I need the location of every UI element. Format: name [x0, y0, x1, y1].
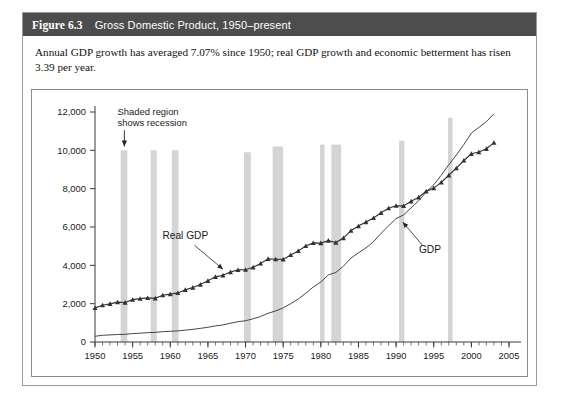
y-axis-ticks-group: 02,0004,0006,0008,00010,00012,000 — [57, 106, 95, 347]
chart-plot-panel: 02,0004,0006,0008,00010,00012,000 195019… — [31, 89, 528, 377]
series-marker — [379, 210, 384, 215]
series-marker — [348, 228, 353, 233]
recession-band — [121, 150, 128, 342]
annotation-arrowhead — [122, 141, 127, 147]
y-axis-tick-label: 10,000 — [57, 145, 86, 156]
y-axis-tick-label: 2,000 — [63, 298, 86, 309]
recession-band — [244, 152, 251, 342]
gdp-line-chart: 02,0004,0006,0008,00010,00012,000 195019… — [32, 90, 527, 376]
chart-annotations-group: Shaded regionshows recession — [118, 106, 187, 147]
figure-title: Gross Domestic Product, 1950–present — [95, 19, 291, 31]
y-axis-tick-label: 12,000 — [57, 106, 86, 117]
x-axis-tick-label: 1980 — [310, 350, 331, 361]
x-axis-tick-label: 2005 — [499, 350, 520, 361]
recession-band — [172, 150, 179, 342]
y-axis-tick-label: 8,000 — [63, 183, 86, 194]
real-gdp-leader-line — [194, 245, 223, 269]
recession-band — [273, 147, 284, 343]
y-axis-tick-label: 6,000 — [63, 221, 86, 232]
series-marker — [205, 278, 210, 283]
figure-number: Figure 6.3 — [32, 19, 83, 31]
series-marker — [409, 199, 414, 204]
recession-band — [399, 141, 404, 342]
series-marker — [198, 282, 203, 287]
figure-caption: Annual GDP growth has averaged 7.07% sin… — [23, 36, 536, 82]
series-marker — [491, 140, 496, 145]
series-marker — [251, 265, 256, 270]
x-axis-tick-label: 1970 — [235, 350, 256, 361]
x-axis-tick-label: 1995 — [423, 350, 444, 361]
series-marker — [363, 220, 368, 225]
recession-band — [151, 150, 157, 342]
x-axis-tick-label: 1950 — [85, 350, 106, 361]
series-label-real-gdp: Real GDP — [162, 230, 208, 241]
series-marker — [356, 224, 361, 229]
x-axis-tick-label: 1955 — [122, 350, 143, 361]
y-axis-tick-label: 4,000 — [63, 260, 86, 271]
x-axis-tick-label: 1985 — [348, 350, 369, 361]
recession-band — [448, 118, 453, 342]
series-marker — [258, 261, 263, 266]
x-axis-tick-label: 1960 — [160, 350, 181, 361]
annotation-text-line: Shaded region — [118, 106, 179, 117]
x-axis-tick-label: 1975 — [273, 350, 294, 361]
annotation-text-line: shows recession — [118, 117, 187, 128]
x-axis-tick-label: 1990 — [386, 350, 407, 361]
figure-header: Figure 6.3 Gross Domestic Product, 1950–… — [23, 13, 536, 36]
series-marker — [288, 252, 293, 257]
series-marker — [326, 238, 331, 243]
y-axis-tick-label: 0 — [81, 336, 86, 347]
x-axis-tick-label: 2000 — [461, 350, 482, 361]
x-axis-tick-label: 1965 — [197, 350, 218, 361]
figure-container: Figure 6.3 Gross Domestic Product, 1950–… — [22, 12, 537, 386]
x-axis-ticks-group: 1950195519601965197019751980198519901995… — [85, 342, 520, 361]
